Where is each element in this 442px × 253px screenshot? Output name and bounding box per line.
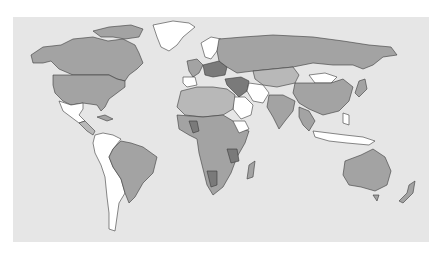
- region-indonesia: [313, 131, 375, 145]
- region-philippines: [343, 113, 349, 125]
- region-russia: [217, 35, 397, 73]
- region-australia: [343, 149, 391, 191]
- region-india: [267, 95, 295, 129]
- region-caribbean: [97, 115, 113, 121]
- region-western-europe: [187, 59, 203, 77]
- map-panel: [13, 17, 429, 242]
- world-map: [13, 17, 429, 242]
- region-new-zealand: [399, 181, 415, 203]
- region-madagascar: [247, 161, 255, 179]
- region-central-america: [79, 121, 95, 135]
- region-japan: [355, 79, 367, 97]
- region-saudi-arabia: [233, 97, 253, 119]
- region-tasmania: [373, 195, 379, 201]
- region-greenland: [153, 21, 195, 51]
- region-arctic-islands: [93, 25, 143, 39]
- region-mongolia: [309, 73, 337, 83]
- region-iran: [247, 83, 269, 103]
- region-canada: [31, 37, 143, 81]
- region-spain: [183, 77, 197, 87]
- region-north-africa: [177, 87, 235, 117]
